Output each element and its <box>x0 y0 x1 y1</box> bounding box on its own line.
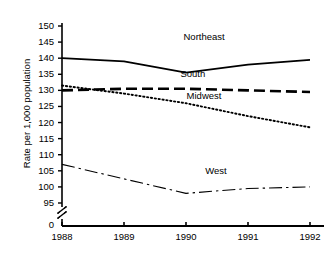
y-tick-label: 140 <box>28 52 54 63</box>
y-tick-label: 125 <box>28 100 54 111</box>
y-tick-label: 120 <box>28 117 54 128</box>
y-tick-label: 110 <box>28 149 54 160</box>
series-label-south: South <box>180 68 205 79</box>
y-axis-zero-label: 0 <box>28 219 54 230</box>
series-line-west <box>62 164 310 193</box>
y-tick-label: 130 <box>28 84 54 95</box>
y-tick-label: 100 <box>28 181 54 192</box>
y-tick-label: 150 <box>28 20 54 31</box>
y-tick-label: 95 <box>28 197 54 208</box>
x-tick-label: 1992 <box>290 231 330 242</box>
y-tick-label: 105 <box>28 165 54 176</box>
x-tick-label: 1991 <box>228 231 268 242</box>
series-label-west: West <box>205 165 226 176</box>
x-tick-label: 1988 <box>42 231 82 242</box>
series-label-northeast: Northeast <box>184 31 225 42</box>
y-tick-label: 145 <box>28 36 54 47</box>
y-tick-label: 135 <box>28 68 54 79</box>
line-chart: Rate per 1,000 population 15014514013513… <box>0 0 332 255</box>
x-tick-label: 1990 <box>166 231 206 242</box>
x-tick-label: 1989 <box>104 231 144 242</box>
y-tick-label: 115 <box>28 133 54 144</box>
series-label-midwest: Midwest <box>187 90 222 101</box>
